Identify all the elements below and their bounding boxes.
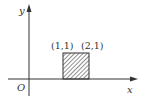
- point-label-1-1: (1,1): [51, 40, 74, 51]
- x-axis-label: x: [127, 84, 133, 95]
- shaded-region: [63, 53, 89, 79]
- y-axis-label: y: [18, 5, 25, 16]
- origin-label: O: [17, 82, 25, 93]
- point-label-2-1: (2,1): [81, 40, 104, 51]
- y-axis: [27, 4, 32, 96]
- coordinate-diagram: y x O (1,1) (2,1): [0, 0, 146, 110]
